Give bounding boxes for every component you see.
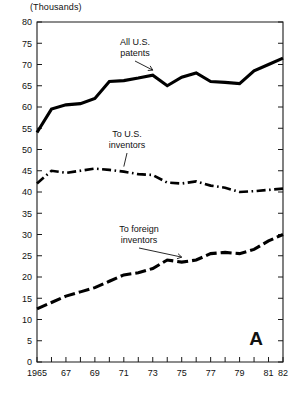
y-axis-tick-label: 70 [22, 60, 32, 70]
x-axis-tick-label: 71 [119, 368, 129, 378]
y-axis-tick-label: 5 [27, 336, 32, 346]
y-axis-tick-label: 80 [22, 17, 32, 27]
y-axis-tick-label: 55 [22, 124, 32, 134]
annotation-all-us-patents-line1: All U.S. [120, 37, 150, 47]
chart-canvas: 05101520253035404550556065707580 1965676… [0, 0, 295, 396]
patent-trends-chart-figure: (Thousands) 0510152025303540455055606570… [0, 0, 295, 396]
y-axis-tick-label: 65 [22, 81, 32, 91]
annotation-to-foreign-inventors-line2: inventors [121, 235, 158, 245]
y-axis-tick-label: 35 [22, 209, 32, 219]
annotation-to-us-inventors: To U.S. inventors [109, 129, 146, 167]
x-axis-tick-label: 1965 [27, 368, 47, 378]
y-axis-tick-label: 20 [22, 272, 32, 282]
annotation-to-foreign-inventors-arrow [139, 248, 182, 259]
y-axis-tick-label: 0 [27, 357, 32, 367]
y-axis-tick-label: 45 [22, 166, 32, 176]
annotation-to-us-inventors-line1: To U.S. [112, 129, 142, 139]
y-axis-tick-label: 25 [22, 251, 32, 261]
y-axis-tick-label: 50 [22, 145, 32, 155]
y-axis-tick-label: 75 [22, 39, 32, 49]
annotation-all-us-patents-arrow [135, 61, 153, 70]
annotation-to-foreign-inventors: To foreign inventors [119, 224, 181, 259]
annotation-to-us-inventors-pointer [124, 153, 127, 167]
x-axis-tick-group: 1965676971737577798182 [27, 357, 288, 378]
annotation-to-us-inventors-line2: inventors [109, 140, 146, 150]
x-axis-tick-label: 67 [61, 368, 71, 378]
x-axis-tick-label: 73 [148, 368, 158, 378]
annotation-to-foreign-inventors-line1: To foreign [119, 224, 159, 234]
y-axis-tick-label: 15 [22, 294, 32, 304]
x-axis-tick-label: 81 [264, 368, 274, 378]
x-axis-tick-label: 75 [177, 368, 187, 378]
y-axis-tick-label: 60 [22, 102, 32, 112]
annotation-all-us-patents: All U.S. patents [120, 37, 153, 70]
y-axis-tick-label: 10 [22, 315, 32, 325]
x-axis-tick-label: 79 [235, 368, 245, 378]
panel-letter-label: A [249, 328, 263, 349]
series-line-all-us-patents [37, 58, 283, 132]
y-axis-tick-label: 40 [22, 187, 32, 197]
x-axis-tick-label: 82 [278, 368, 288, 378]
annotation-all-us-patents-line2: patents [120, 48, 150, 58]
x-axis-tick-label: 69 [90, 368, 100, 378]
series-line-to-us-inventors [37, 169, 283, 192]
series-line-to-foreign-inventors [37, 235, 283, 309]
x-axis-tick-label: 77 [206, 368, 216, 378]
y-axis-tick-label: 30 [22, 230, 32, 240]
